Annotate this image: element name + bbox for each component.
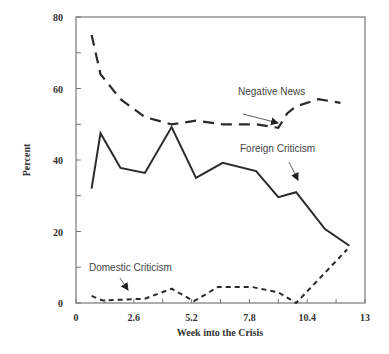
annotation-label: Foreign Criticism	[240, 143, 315, 154]
x-tick-label: 2.6	[128, 312, 141, 323]
x-tick-label: 0	[74, 312, 79, 323]
y-axis-ticks: 020406080	[53, 12, 81, 309]
y-tick-label: 0	[58, 298, 63, 309]
plot-frame	[76, 17, 365, 303]
y-tick-label: 60	[53, 84, 63, 95]
arrow-icon	[120, 278, 128, 290]
y-tick-label: 80	[53, 12, 63, 23]
y-axis-title: Percent	[21, 143, 32, 176]
annotation-domestic-criticism: Domestic Criticism	[89, 262, 172, 290]
x-tick-label: 5.2	[185, 312, 198, 323]
annotation-negative-news: Negative News	[238, 86, 305, 123]
x-tick-label: 10.4	[298, 312, 316, 323]
annotation-label: Domestic Criticism	[89, 262, 172, 273]
x-tick-label: 7.8	[243, 312, 256, 323]
y-tick-label: 40	[53, 155, 63, 166]
line-chart: 020406080 02.65.27.810.413 Week into the…	[0, 0, 389, 354]
arrow-icon	[243, 114, 278, 123]
arrow-icon	[289, 162, 298, 180]
y-tick-label: 20	[53, 227, 63, 238]
x-axis-title: Week into the Crisis	[177, 327, 263, 338]
series-negative-news	[92, 35, 341, 128]
annotation-label: Negative News	[238, 86, 305, 97]
x-tick-label: 13	[360, 312, 370, 323]
series-domestic-criticism	[92, 249, 348, 303]
annotation-foreign-criticism: Foreign Criticism	[240, 143, 315, 180]
